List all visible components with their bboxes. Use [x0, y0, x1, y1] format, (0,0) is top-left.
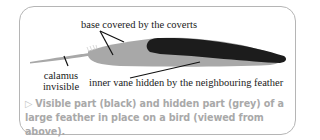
figure-caption: ▷Visible part (black) and hidden part (g…	[25, 97, 295, 139]
calamus-shaft	[30, 52, 95, 64]
label-calamus-line1: calamus	[41, 70, 81, 81]
label-base-covered: base covered by the coverts	[81, 19, 197, 30]
label-calamus: calamus invisible	[41, 70, 81, 92]
triangle-marker-icon: ▷	[25, 98, 32, 109]
caption-text: Visible part (black) and hidden part (gr…	[25, 98, 284, 137]
label-inner-vane: inner vane hidden by the neighbouring fe…	[89, 77, 283, 88]
label-calamus-line2: invisible	[41, 81, 81, 92]
